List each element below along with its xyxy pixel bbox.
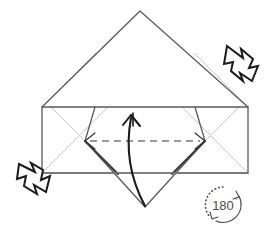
pull-out-arrow-upper-right bbox=[224, 46, 258, 81]
rotate-180-symbol: 180 ° bbox=[205, 187, 241, 222]
paper-fills bbox=[42, 11, 248, 207]
origami-figure: 180 ° bbox=[0, 0, 273, 236]
degree-symbol: ° bbox=[234, 196, 237, 205]
rotate-180-label: 180 bbox=[212, 198, 234, 213]
pull-out-arrow-upper-right-body bbox=[224, 46, 258, 81]
upper-triangle-fill bbox=[42, 11, 248, 107]
rotate-arrowhead-bottom bbox=[210, 212, 218, 219]
origami-diagram-canvas: 180 ° bbox=[0, 0, 273, 236]
